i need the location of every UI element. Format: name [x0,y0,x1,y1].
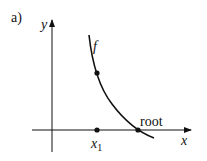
panel-label: a) [11,10,22,26]
newton-method-diagram: a) y x f root x1 [0,0,207,161]
svg-text:x1: x1 [90,136,102,153]
point-x1 [94,127,99,132]
root-label: root [140,114,163,129]
point-on-curve [94,70,99,75]
y-axis-label: y [39,17,48,32]
curve-label: f [93,39,99,54]
x-axis-label: x [180,133,188,148]
x1-subscript: 1 [97,142,102,153]
